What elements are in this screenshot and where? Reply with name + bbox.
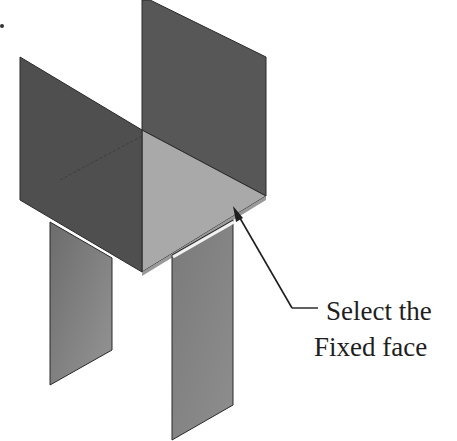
callout-leader [237, 213, 292, 308]
callout-label-line1: Select the [326, 296, 432, 327]
callout-label-line2: Fixed face [314, 332, 427, 363]
sheet-metal-model [0, 0, 457, 441]
stray-dot [0, 24, 4, 28]
